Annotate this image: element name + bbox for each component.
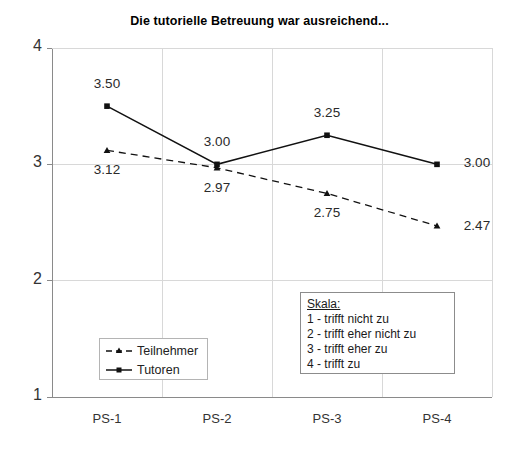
x-axis-tick-label: PS-3 — [282, 411, 372, 426]
scale-annotation-box: Skala: 1 - trifft nicht zu2 - trifft ehe… — [300, 292, 455, 374]
legend-label-teilnehmer: Teilnehmer — [137, 344, 198, 358]
data-point-label: 2.47 — [447, 218, 507, 233]
y-axis-tick-label: 1 — [8, 386, 42, 404]
data-point-label: 3.50 — [77, 76, 137, 91]
x-axis-tick-label: PS-1 — [62, 411, 152, 426]
marker-square-tutoren — [104, 103, 110, 109]
data-point-label: 3.12 — [77, 162, 137, 177]
x-axis-tick-label: PS-4 — [392, 411, 482, 426]
marker-square-tutoren — [434, 162, 440, 168]
x-axis-tick-label: PS-2 — [172, 411, 262, 426]
data-point-label: 3.25 — [297, 105, 357, 120]
scale-heading: Skala: — [307, 297, 454, 312]
scale-item: 3 - trifft eher zu — [307, 342, 454, 357]
plot-area — [0, 0, 519, 454]
scale-item-list: 1 - trifft nicht zu2 - trifft eher nicht… — [307, 312, 454, 372]
data-point-label: 2.97 — [187, 180, 247, 195]
y-axis-tick-label: 3 — [8, 153, 42, 171]
y-axis-tick-label: 2 — [8, 270, 42, 288]
chart-container: Die tutorielle Betreuung war ausreichend… — [0, 0, 519, 454]
data-point-label: 3.00 — [447, 155, 507, 170]
series-legend: Teilnehmer Tutoren — [99, 338, 208, 380]
marker-square-tutoren — [324, 132, 330, 138]
scale-item: 4 - trifft zu — [307, 357, 454, 372]
legend-item-teilnehmer: Teilnehmer — [106, 341, 198, 360]
legend-item-tutoren: Tutoren — [106, 360, 180, 379]
scale-item: 1 - trifft nicht zu — [307, 312, 454, 327]
legend-sample-dashed-triangle — [106, 346, 132, 356]
legend-sample-solid-square — [106, 365, 132, 375]
scale-item: 2 - trifft eher nicht zu — [307, 327, 454, 342]
data-point-label: 3.00 — [187, 134, 247, 149]
marker-triangle-teilnehmer — [104, 147, 111, 153]
legend-label-tutoren: Tutoren — [137, 363, 180, 377]
data-point-label: 2.75 — [297, 205, 357, 220]
y-axis-tick-label: 4 — [8, 37, 42, 55]
